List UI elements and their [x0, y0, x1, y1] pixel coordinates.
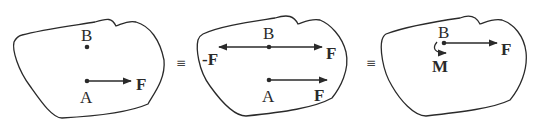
diagram-graphics — [0, 0, 539, 129]
equivalence-symbol-1: ≡ — [176, 57, 186, 69]
label-F-at-B-2: F — [326, 45, 336, 62]
rigid-body-outline-3 — [381, 16, 526, 116]
label-neg-F-2: -F — [202, 51, 218, 68]
label-F-3: F — [501, 41, 511, 58]
label-F-1: F — [136, 76, 146, 93]
point-B-1 — [85, 45, 90, 50]
label-A-2: A — [262, 88, 274, 105]
label-M-3: M — [432, 58, 448, 75]
label-B-2: B — [263, 25, 274, 42]
label-B-1: B — [81, 27, 92, 44]
force-couple-diagram: B A F ≡ B -F F A F ≡ B F M — [0, 0, 539, 129]
label-F-at-A-2: F — [314, 87, 324, 104]
label-B-3: B — [438, 24, 449, 41]
label-A-1: A — [80, 89, 92, 106]
equivalence-symbol-2: ≡ — [366, 57, 376, 69]
